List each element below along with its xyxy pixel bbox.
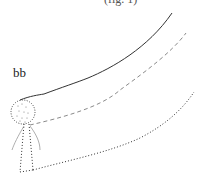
vertical-dotted-band-right: [29, 124, 33, 170]
label-bb: bb: [13, 65, 26, 81]
diagram-canvas: [0, 0, 198, 179]
right-flank-stroke: [30, 126, 40, 150]
solid-curve: [44, 13, 172, 94]
bottom-dotted-join: [20, 170, 33, 172]
dotted-curve: [33, 92, 194, 170]
left-flank-stroke: [12, 126, 24, 150]
dotted-circle: [11, 100, 35, 124]
circle-stipple: [17, 104, 29, 123]
dashed-curve: [30, 33, 186, 125]
connector-stroke: [20, 94, 44, 100]
